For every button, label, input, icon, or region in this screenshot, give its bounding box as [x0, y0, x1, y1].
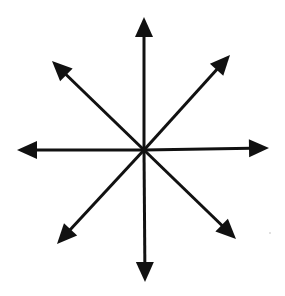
arrow-down-right-shaft [144, 150, 223, 226]
arrow-up-left-shaft [65, 74, 144, 150]
arrow-up [135, 17, 153, 150]
radial-arrows-diagram [0, 0, 285, 296]
arrow-down-shaft [144, 150, 145, 264]
arrow-right [144, 139, 269, 157]
arrow-down-left [57, 150, 144, 244]
arrow-left-head-icon [17, 141, 37, 159]
arrow-right-head-icon [249, 139, 269, 157]
arrow-down-left-shaft [69, 150, 144, 231]
arrow-down-head-icon [136, 262, 154, 282]
center-point [142, 148, 147, 153]
arrows-group [17, 17, 269, 282]
arrow-up-left [52, 61, 144, 150]
arrow-left [17, 141, 144, 159]
arrow-up-head-icon [135, 17, 153, 37]
arrow-down-right [144, 150, 236, 239]
arrow-up-right-shaft [144, 68, 218, 150]
arrow-up-right [144, 55, 230, 150]
arrow-right-shaft [144, 148, 251, 150]
arrow-down [136, 150, 154, 282]
scan-speck [269, 232, 271, 234]
